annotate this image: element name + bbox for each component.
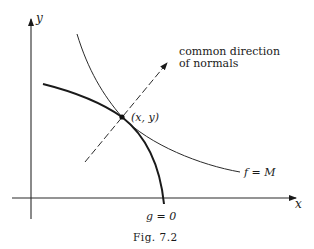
curve-f-label: f = M xyxy=(243,166,276,179)
y-axis-label: y xyxy=(35,11,43,25)
curve-g-label: g = 0 xyxy=(146,210,176,223)
annotation-line-2: of normals xyxy=(179,57,239,70)
tangency-point xyxy=(119,114,124,119)
curve-g-equals-0 xyxy=(43,84,164,204)
figure-caption: Fig. 7.2 xyxy=(133,231,178,243)
point-label: (x, y) xyxy=(131,111,159,124)
figure-canvas: y x (x, y) common direction of normals f… xyxy=(0,0,314,249)
x-axis-label: x xyxy=(295,197,302,211)
